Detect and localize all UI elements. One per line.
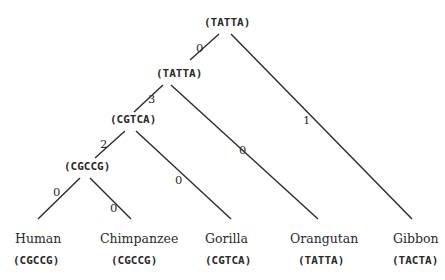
- leaf-name-chimpanzee: Chimpanzee: [100, 231, 178, 246]
- edge-weight-n1-n2: 3: [148, 92, 155, 106]
- node-n3-seq: (CGCCG): [64, 160, 110, 173]
- node-root-seq: (TATTA): [204, 16, 250, 29]
- edge-weight-n1-orangutan: 0: [239, 143, 246, 157]
- node-n2-seq: (CGTCA): [110, 113, 156, 126]
- leaf-seq-human: (CGCCG): [13, 254, 59, 267]
- leaf-name-gorilla: Gorilla: [205, 231, 248, 246]
- edge-weight-n3-chimpanzee: 0: [110, 201, 117, 215]
- edge-weight-root-n1: 0: [196, 41, 203, 55]
- edge-root-gibbon: [231, 34, 412, 219]
- tree-canvas: 0 1 3 0 2 0 0 0 (TATTA) (TATTA) (CGTCA) …: [0, 0, 445, 280]
- leaf-seq-orangutan: (TATTA): [298, 254, 344, 267]
- leaf-seq-gorilla: (CGTCA): [205, 254, 251, 267]
- edge-root-n1: [190, 34, 219, 60]
- edge-n2-gorilla: [136, 131, 231, 219]
- leaf-seq-gibbon: (TACTA): [392, 254, 438, 267]
- edge-weight-n2-gorilla: 0: [175, 173, 182, 187]
- phylogenetic-tree-diagram: 0 1 3 0 2 0 0 0 (TATTA) (TATTA) (CGTCA) …: [0, 0, 445, 280]
- leaf-name-gibbon: Gibbon: [393, 231, 439, 246]
- edge-weight-n3-human: 0: [53, 185, 60, 199]
- leaf-seq-chimpanzee: (CGCCG): [111, 254, 157, 267]
- node-n1-seq: (TATTA): [156, 67, 202, 80]
- leaf-name-human: Human: [15, 231, 61, 246]
- edge-weight-root-gibbon: 1: [303, 113, 310, 127]
- edge-weight-n2-n3: 2: [100, 137, 107, 151]
- leaf-name-orangutan: Orangutan: [290, 231, 358, 246]
